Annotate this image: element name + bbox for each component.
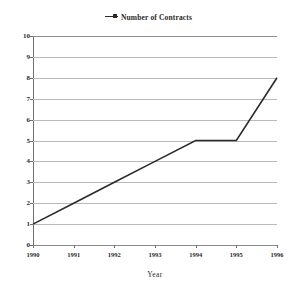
x-tick-label: 1994 [176,250,216,259]
chart-legend: Number of Contracts [0,9,297,23]
x-tick-mark [196,245,197,248]
x-axis-title: Year [33,270,277,279]
x-axis-tick-labels: 1990 1991 1992 1993 1994 1995 1996 [33,250,277,260]
y-tick-label: 8 [8,74,30,82]
x-tick-label: 1995 [216,250,256,259]
x-tick-mark [33,245,34,248]
x-tick-mark [74,245,75,248]
line-chart-figure: Number of Contracts 10 9 8 7 6 5 4 3 2 1… [0,0,297,296]
x-tick-label: 1996 [257,250,297,259]
y-tick-label: 9 [8,53,30,61]
plot-area [33,36,277,245]
x-tick-label: 1993 [135,250,175,259]
x-tick-mark [114,245,115,248]
line-marker-icon [105,13,118,20]
y-tick-label: 7 [8,95,30,103]
y-tick-label: 10 [8,32,30,40]
y-tick-label: 2 [8,199,30,207]
y-tick-label: 1 [8,220,30,228]
y-tick-label: 4 [8,157,30,165]
x-tick-label: 1991 [54,250,94,259]
y-axis-tick-labels: 10 9 8 7 6 5 4 3 2 1 0 [3,36,30,245]
series-polyline [33,78,277,224]
y-tick-label: 3 [8,178,30,186]
x-tick-label: 1992 [94,250,134,259]
y-tick-label: 5 [8,137,30,145]
x-tick-mark [236,245,237,248]
y-tick-label: 6 [8,116,30,124]
y-tick-label: 0 [8,241,30,249]
x-tick-label: 1990 [13,250,53,259]
legend-label: Number of Contracts [121,13,192,22]
legend-entry-number-of-contracts: Number of Contracts [105,10,192,25]
series-number-of-contracts [33,36,277,245]
x-tick-mark [277,245,278,248]
x-tick-mark [155,245,156,248]
